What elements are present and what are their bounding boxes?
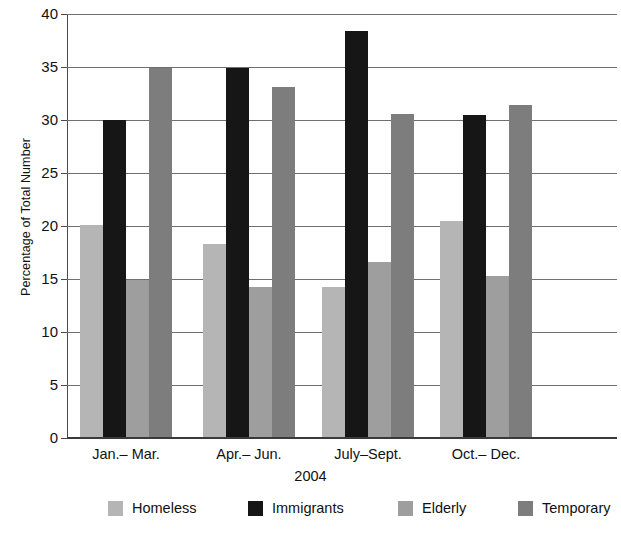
bar-immigrants-3 bbox=[345, 31, 368, 438]
legend-label: Homeless bbox=[132, 500, 196, 516]
bar-homeless-3 bbox=[322, 287, 345, 438]
bar-temporary-2 bbox=[272, 87, 295, 438]
y-axis-tick-label: 0 bbox=[18, 429, 58, 446]
y-axis-tick-labels: 0510152025303540 bbox=[12, 14, 58, 438]
bar-temporary-4 bbox=[509, 105, 532, 438]
legend-item-elderly[interactable]: Elderly bbox=[398, 500, 466, 516]
bar-homeless-1 bbox=[80, 225, 103, 438]
x-axis-tick-label: Jan.– Mar. bbox=[66, 446, 186, 462]
y-axis-tick-label: 25 bbox=[18, 164, 58, 181]
legend-label: Temporary bbox=[542, 500, 611, 516]
chart-legend: HomelessImmigrantsElderlyTemporary bbox=[0, 500, 621, 528]
y-axis-tick bbox=[61, 385, 67, 386]
legend-item-homeless[interactable]: Homeless bbox=[108, 500, 196, 516]
x-axis-tick-label: Apr.– Jun. bbox=[189, 446, 309, 462]
bar-immigrants-2 bbox=[226, 68, 249, 438]
y-axis-tick-label: 15 bbox=[18, 270, 58, 287]
bar-homeless-4 bbox=[440, 221, 463, 438]
bar-elderly-2 bbox=[249, 287, 272, 438]
y-axis-tick bbox=[61, 120, 67, 121]
y-axis-tick-label: 30 bbox=[18, 111, 58, 128]
legend-label: Elderly bbox=[422, 500, 466, 516]
x-axis-tick-label: Oct.– Dec. bbox=[426, 446, 546, 462]
y-axis-tick-label: 10 bbox=[18, 323, 58, 340]
y-axis-tick bbox=[61, 332, 67, 333]
bar-temporary-3 bbox=[391, 114, 414, 438]
legend-swatch-icon bbox=[248, 501, 263, 516]
x-axis-tick-label: July–Sept. bbox=[308, 446, 428, 462]
legend-swatch-icon bbox=[398, 501, 413, 516]
y-axis-tick-label: 20 bbox=[18, 217, 58, 234]
bar-elderly-1 bbox=[126, 280, 149, 438]
y-axis-tick-label: 5 bbox=[18, 376, 58, 393]
gridline bbox=[67, 14, 617, 15]
bar-immigrants-4 bbox=[463, 115, 486, 438]
x-axis-title: 2004 bbox=[0, 468, 621, 484]
y-axis-tick-label: 35 bbox=[18, 58, 58, 75]
bar-elderly-4 bbox=[486, 276, 509, 438]
bar-temporary-1 bbox=[149, 68, 172, 438]
legend-item-temporary[interactable]: Temporary bbox=[518, 500, 611, 516]
bar-chart: Percentage of Total Number 0510152025303… bbox=[0, 0, 621, 534]
y-axis-tick-label: 40 bbox=[18, 5, 58, 22]
bar-homeless-2 bbox=[203, 244, 226, 438]
y-axis-tick bbox=[61, 279, 67, 280]
legend-swatch-icon bbox=[108, 501, 123, 516]
legend-label: Immigrants bbox=[272, 500, 344, 516]
y-axis-tick bbox=[61, 67, 67, 68]
plot-area bbox=[67, 14, 617, 438]
legend-swatch-icon bbox=[518, 501, 533, 516]
legend-item-immigrants[interactable]: Immigrants bbox=[248, 500, 344, 516]
x-axis-line bbox=[67, 437, 617, 439]
y-axis-tick bbox=[61, 173, 67, 174]
y-axis-tick bbox=[61, 14, 67, 15]
bar-immigrants-1 bbox=[103, 120, 126, 438]
bar-elderly-3 bbox=[368, 262, 391, 438]
y-axis-tick bbox=[61, 226, 67, 227]
